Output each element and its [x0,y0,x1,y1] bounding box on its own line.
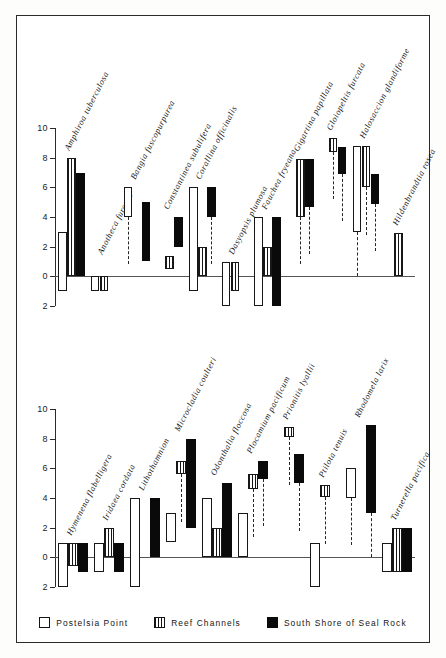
range-bar-reef-channels [394,233,403,276]
bar-connector [181,474,182,521]
legend-label: Postelsia Point [56,618,128,628]
species-group: Prionitis lyallii [271,409,307,587]
y-axis-tick-label: 2 [43,523,48,533]
range-bar-reef-channels [198,247,207,277]
y-axis-tick-label: 10 [37,404,48,414]
range-bar-postelsia-point [91,276,100,291]
bar-connector [325,497,326,544]
species-label: Turnerella pacifica [388,449,432,521]
y-axis-tick-label: 8 [43,153,48,163]
species-group: Hildenbrandtia rosea [382,128,415,306]
chart-legend: Postelsia PointReef ChannelsSouth Shore … [17,617,429,628]
hatched-square-icon [154,617,165,628]
bar-connector [366,187,367,234]
range-bar-seal-rock [258,461,267,479]
range-bar-postelsia-point [238,513,247,558]
range-bar-postelsia-point [189,187,198,291]
range-bar-postelsia-point [254,217,263,306]
chart-panel-top: 10864202Amphiroa tuberculosaAnotheca fur… [17,16,429,332]
species-label: Gloiopeltis furcata [324,61,367,133]
y-axis-tick-label: 6 [43,463,48,473]
species-label: Halosaccion glandiforme [357,46,411,140]
range-bar-seal-rock [402,528,411,573]
range-bar-seal-rock [371,174,380,204]
bar-connector [309,207,310,254]
species-group: Amphiroa tuberculosa [55,128,88,306]
species-group: Dasyopsis plumosa [219,128,252,306]
range-bar-seal-rock [142,202,151,261]
bar-connector [371,513,372,558]
bar-connector [211,217,212,264]
figure-frame: 10864202Amphiroa tuberculosaAnotheca fur… [16,15,430,643]
range-bar-reef-channels [320,485,329,497]
range-bar-postelsia-point [166,513,175,543]
range-bar-reef-channels [231,262,240,292]
species-group: Gloiopeltis furcata [317,128,350,306]
range-bar-seal-rock [114,543,123,573]
species-group: Hymenena flabelligera [55,409,91,587]
range-bar-reef-channels [392,528,401,573]
bar-connector [375,204,376,251]
plot-area-bottom: 10864202Hymenena flabelligeraIridaea cor… [55,409,415,587]
bar-connector [342,174,343,221]
range-bar-postelsia-point [353,146,362,232]
y-axis-tick-label: 6 [43,182,48,192]
chart-panel-bottom: 10864202Hymenena flabelligeraIridaea cor… [17,332,429,644]
range-bar-postelsia-point [58,232,67,291]
range-bar-reef-channels [362,146,371,188]
y-axis-tick [50,306,55,307]
species-group: Anotheca furcata [88,128,121,306]
range-bar-postelsia-point [382,543,391,573]
species-group: Microcladia coulteri [163,409,199,587]
species-group: Corallina officinalis [186,128,219,306]
y-axis-tick-label: 4 [43,212,48,222]
species-group: Iridaea cordata [91,409,127,587]
y-axis-tick-label: 8 [43,434,48,444]
range-bar-reef-channels [104,528,113,558]
bar-connector [263,479,264,526]
range-bar-reef-channels [212,528,221,558]
range-bar-postelsia-point [346,468,355,498]
figure-root: 10864202Amphiroa tuberculosaAnotheca fur… [0,0,446,658]
range-bar-reef-channels [329,138,338,151]
species-group: Rhodomela larix [343,409,379,587]
range-bar-reef-channels [248,474,257,489]
range-bar-seal-rock [78,543,87,573]
range-bar-reef-channels [67,158,76,277]
bar-connector [300,217,301,264]
species-label: Hildenbrandtia rosea [390,147,437,227]
range-bar-postelsia-point [222,262,231,307]
range-bar-reef-channels [165,256,174,269]
y-axis-tick-label: 2 [43,301,48,311]
open-square-icon [39,617,50,628]
y-axis-tick-label: 2 [43,242,48,252]
legend-label: Reef Channels [171,618,241,628]
legend-label: South Shore of Seal Rock [284,618,407,628]
range-bar-seal-rock [366,425,375,513]
bar-connector [299,483,300,530]
legend-item: South Shore of Seal Rock [267,617,407,628]
species-group: Gigartina papillata [284,128,317,306]
y-axis-tick-label: 4 [43,493,48,503]
species-group: Lithothamnion [127,409,163,587]
range-bar-reef-channels [296,159,305,217]
range-bar-postelsia-point [310,543,319,588]
range-bar-seal-rock [272,217,281,306]
range-bar-seal-rock [76,173,85,277]
range-bar-postelsia-point [130,498,139,587]
species-group: Odonthalia floccosa [199,409,235,587]
species-group: Turnerella pacifica [379,409,415,587]
species-group: Constantinea subulifera [153,128,186,306]
plot-area-top: 10864202Amphiroa tuberculosaAnotheca fur… [55,128,415,306]
y-axis-tick-label: 0 [43,552,48,562]
y-axis-tick-label: 2 [43,582,48,592]
range-bar-seal-rock [338,147,347,174]
range-bar-reef-channels [68,543,77,567]
species-group: Fauchea fryeana [251,128,284,306]
bar-connector [253,489,254,536]
range-bar-postelsia-point [202,498,211,557]
y-axis-tick [50,587,55,588]
range-bar-postelsia-point [58,543,67,588]
filled-square-icon [267,617,278,628]
range-bar-seal-rock [186,439,195,528]
